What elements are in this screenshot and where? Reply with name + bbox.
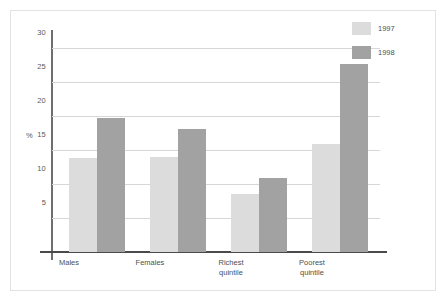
legend-label-1997: 1997 [378,24,395,33]
y-tick-label: 10 [24,165,46,173]
legend-swatch-1997 [352,22,371,35]
y-tick-label: 20 [24,97,46,105]
y-axis-title: % [26,131,33,140]
bar-group-females [150,33,206,252]
chart-figure: 30 25 20 15 10 5 % [0,0,446,301]
legend-item-1997[interactable]: 1997 [352,22,426,35]
x-tick-label-line: Poorest [267,258,357,268]
x-tick-label-poorest-quintile: Poorest quintile [267,258,357,278]
bar-1997-males[interactable] [69,158,97,252]
x-tick-label-line: quintile [267,268,357,278]
x-tick-label-line: Females [105,258,195,268]
y-tick-label: 30 [24,29,46,37]
y-axis-tick-labels: 30 25 20 15 10 5 [22,0,46,301]
y-tick-label: 5 [24,199,46,207]
bar-1997-females[interactable] [150,157,178,252]
bar-1998-females[interactable] [178,129,206,252]
x-tick-label-line: Richest [186,258,276,268]
y-tick-label: 25 [24,63,46,71]
bar-1997-poorest-quintile[interactable] [312,144,340,252]
x-tick-label-richest-quintile: Richest quintile [186,258,276,278]
legend-swatch-1998 [352,46,371,59]
plot-area [52,33,380,252]
x-tick-label-females: Females [105,258,195,268]
x-tick-label-line: Males [24,258,114,268]
legend-label-1998: 1998 [378,48,395,57]
bar-group-males [69,33,125,252]
bar-1998-poorest-quintile[interactable] [340,64,368,252]
bar-group-richest-quintile [231,33,287,252]
x-tick-label-males: Males [24,258,114,268]
bar-1997-richest-quintile[interactable] [231,194,259,252]
bar-1998-richest-quintile[interactable] [259,178,287,252]
chart-legend: 1997 1998 [352,22,426,70]
bar-1998-males[interactable] [97,118,125,252]
legend-item-1998[interactable]: 1998 [352,46,426,59]
x-tick-label-line: quintile [186,268,276,278]
